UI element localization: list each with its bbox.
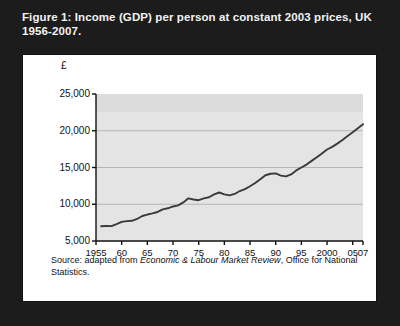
source-note: Source: adapted from Economic & Labour M…	[51, 255, 361, 278]
y-tick-label: 25,000	[44, 88, 90, 99]
y-tick-label: 20,000	[44, 125, 90, 136]
y-tick-label: 5,000	[44, 235, 90, 246]
line-chart	[23, 55, 378, 255]
chart-plot-area: 25,00020,00015,00010,0005,000 1955606570…	[23, 55, 378, 255]
source-publication: Economic & Labour Market Review	[140, 255, 281, 265]
source-prefix: Source: adapted from	[51, 255, 140, 265]
y-tick-label: 10,000	[44, 198, 90, 209]
figure-caption: Figure 1: Income (GDP) per person at con…	[22, 10, 384, 38]
y-tick-label: 15,000	[44, 162, 90, 173]
figure-frame: Figure 1: Income (GDP) per person at con…	[0, 0, 400, 326]
chart-card: £ 25,00020,00015,00010,0005,000 19556065…	[22, 54, 377, 302]
